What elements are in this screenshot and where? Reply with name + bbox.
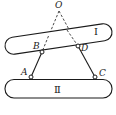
label-C: C: [99, 68, 106, 78]
pivot-D: [76, 44, 80, 48]
label-B: B: [32, 41, 40, 51]
label-O: O: [55, 0, 63, 10]
rod-AB: [31, 52, 42, 77]
pivot-C: [93, 75, 97, 79]
label-A: A: [20, 67, 28, 77]
label-bar-II: Ⅱ: [54, 84, 61, 95]
pivot-A: [29, 75, 33, 79]
pivot-B: [40, 50, 44, 54]
label-bar-I: Ⅰ: [94, 26, 98, 37]
label-D: D: [80, 43, 88, 53]
linkage-diagram: O B D A C Ⅰ Ⅱ: [0, 0, 116, 115]
